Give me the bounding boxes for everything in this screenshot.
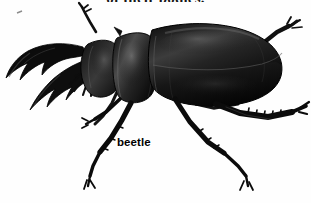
figure-caption: beetle — [117, 136, 151, 149]
right-mandible — [30, 60, 89, 110]
elytra — [148, 24, 282, 106]
scanned-page: of their bodies. — [0, 0, 311, 203]
beetle-illustration — [0, 0, 311, 203]
antenna — [79, 3, 96, 32]
